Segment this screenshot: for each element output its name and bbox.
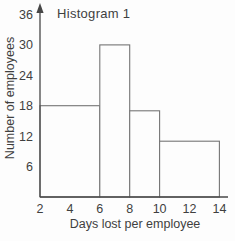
histogram-figure: 612182430362468101214 Histogram 1 Number… (0, 0, 235, 241)
x-tick-label: 14 (212, 202, 226, 216)
x-axis-title: Days lost per employee (40, 217, 230, 231)
y-axis-title: Number of employees (3, 37, 17, 159)
y-axis-arrow-icon (36, 3, 43, 13)
y-tick-label: 18 (19, 99, 33, 113)
chart-title: Histogram 1 (57, 6, 130, 21)
y-tick-label: 36 (19, 8, 33, 22)
y-tick-label: 24 (19, 69, 33, 83)
histogram-bar (40, 106, 100, 197)
histogram-plot: 612182430362468101214 (0, 0, 235, 241)
x-tick-label: 2 (37, 202, 44, 216)
x-tick-label: 10 (153, 202, 167, 216)
x-tick-label: 12 (183, 202, 197, 216)
histogram-bar (100, 45, 130, 197)
x-tick-label: 4 (66, 202, 73, 216)
y-tick-label: 30 (19, 38, 33, 52)
x-tick-label: 6 (96, 202, 103, 216)
x-tick-label: 8 (126, 202, 133, 216)
y-tick-label: 6 (26, 160, 33, 174)
y-tick-label: 12 (19, 130, 33, 144)
histogram-bar (160, 141, 220, 197)
histogram-bar (130, 111, 160, 197)
